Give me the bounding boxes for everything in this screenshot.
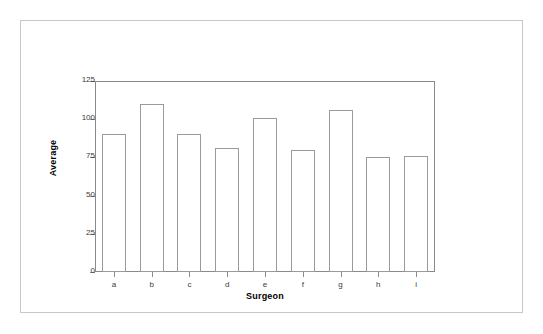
x-tick-mark [189,272,190,277]
y-tick-label: 75 [62,151,95,163]
x-tick-mark [114,272,115,277]
x-axis-title: Surgeon [95,291,435,301]
x-tick-label-h: h [358,280,398,289]
x-tick-label-b: b [132,280,172,289]
bar-f [291,150,315,272]
bar-chart-figure: Average 0255075100125 abcdefghi Surgeon [0,0,543,334]
y-tick-label: 125 [62,75,95,87]
bar-b [140,104,164,272]
bar-e [253,118,277,272]
x-tick-mark [303,272,304,277]
x-tick-mark [265,272,266,277]
x-tick-mark [152,272,153,277]
x-tick-label-f: f [283,280,323,289]
x-tick-mark [378,272,379,277]
x-tick-mark [341,272,342,277]
bar-d [215,148,239,272]
y-tick-label: 50 [62,190,95,202]
x-tick-mark [416,272,417,277]
y-axis-title: Average [48,98,58,218]
x-tick-label-a: a [94,280,134,289]
x-tick-label-d: d [207,280,247,289]
x-tick-label-g: g [321,280,361,289]
x-tick-mark [227,272,228,277]
x-tick-label-c: c [169,280,209,289]
bar-g [329,110,353,272]
bar-a [102,134,126,272]
y-tick-label: 0 [62,266,95,278]
y-tick-label: 25 [62,228,95,240]
y-tick-label: 100 [62,113,95,125]
bar-i [404,156,428,272]
bar-c [177,134,201,272]
x-tick-label-e: e [245,280,285,289]
bar-h [366,157,390,272]
x-tick-label-i: i [396,280,436,289]
